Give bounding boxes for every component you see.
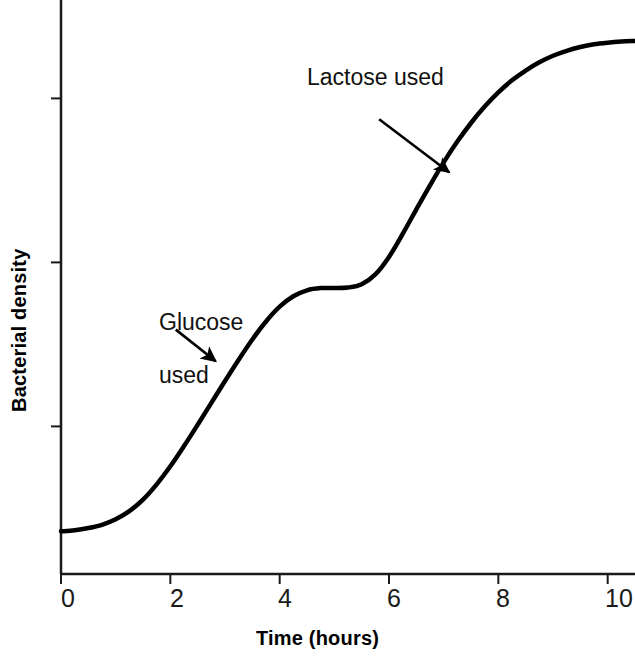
glucose-annotation-label: Glucose used [159,283,243,389]
glucose-annotation-line-1: Glucose [159,309,243,335]
y-axis-ticks [51,98,61,426]
lactose-annotation-label: Lactose used [307,64,444,90]
y-axis-title: Bacterial density [8,249,31,412]
diauxic-growth-plot [0,0,635,656]
x-axis-title: Time (hours) [0,627,635,650]
x-axis-ticks [61,574,608,584]
chart-figure: 0 2 4 6 8 10 Time (hours) Bacterial dens… [0,0,635,656]
glucose-annotation-line-2: used [159,362,209,388]
growth-curve-line [61,41,635,531]
lactose-annotation-arrow [379,119,449,172]
